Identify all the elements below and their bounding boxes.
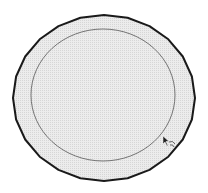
modeling-viewport[interactable]: [0, 0, 208, 193]
circle-face-outer-edge[interactable]: [13, 15, 195, 181]
